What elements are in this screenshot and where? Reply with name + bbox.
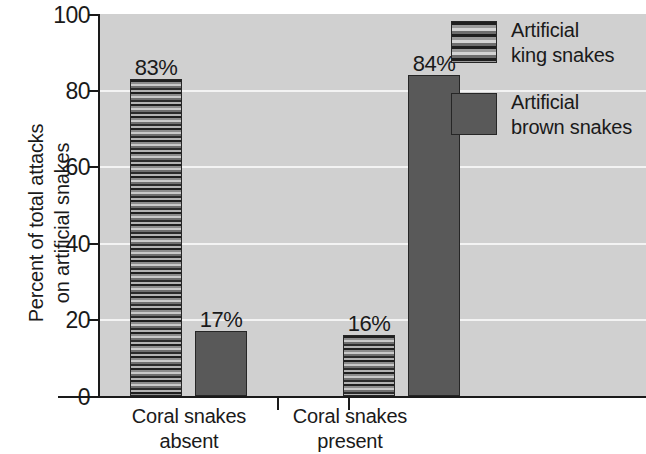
legend-item-brown-snakes[interactable]: Artificial brown snakes (451, 90, 632, 140)
y-tick-mark-20 (88, 319, 99, 321)
bar-chart-figure: Percent of total attacks on artificial s… (0, 0, 646, 454)
x-category-label-present: Coral snakes present (265, 404, 435, 454)
legend-swatch-king-snakes-icon (451, 21, 497, 63)
x-axis-line (58, 396, 646, 398)
bar-king-snakes-absent[interactable] (130, 79, 182, 396)
legend-item-king-snakes[interactable]: Artificial king snakes (451, 18, 632, 68)
x-category-label-absent: Coral snakes absent (104, 404, 274, 454)
bar-king-snakes-present[interactable] (343, 335, 395, 396)
legend: Artificial king snakes Artificial brown … (451, 18, 632, 162)
bar-label-brown-absent: 17% (169, 309, 273, 331)
legend-label-brown-snakes: Artificial brown snakes (511, 90, 632, 140)
y-tick-label-60: 60 (32, 156, 90, 179)
y-tick-mark-40 (88, 243, 99, 245)
y-tick-label-40: 40 (32, 233, 90, 256)
x-category-present-line2: present (265, 429, 435, 454)
y-tick-mark-0 (88, 396, 99, 398)
bar-label-king-present: 16% (317, 313, 421, 335)
bar-label-king-absent: 83% (104, 57, 208, 79)
y-axis-tick-labels: 100 80 60 40 20 0 (32, 0, 90, 454)
legend-label-king-line2: king snakes (511, 43, 614, 68)
y-tick-label-80: 80 (32, 80, 90, 103)
x-category-absent-line2: absent (104, 429, 274, 454)
legend-label-king-snakes: Artificial king snakes (511, 18, 614, 68)
y-tick-mark-100 (88, 14, 99, 16)
y-tick-label-20: 20 (32, 309, 90, 332)
legend-swatch-brown-snakes-icon (451, 93, 497, 135)
y-tick-label-100: 100 (32, 4, 90, 27)
x-category-absent-line1: Coral snakes (104, 404, 274, 429)
legend-label-brown-line2: brown snakes (511, 115, 632, 140)
y-tick-mark-80 (88, 90, 99, 92)
legend-label-king-line1: Artificial (511, 18, 614, 43)
bar-brown-snakes-absent[interactable] (195, 331, 247, 396)
y-tick-mark-60 (88, 166, 99, 168)
legend-label-brown-line1: Artificial (511, 90, 632, 115)
y-axis-line (98, 14, 100, 398)
x-category-present-line1: Coral snakes (265, 404, 435, 429)
